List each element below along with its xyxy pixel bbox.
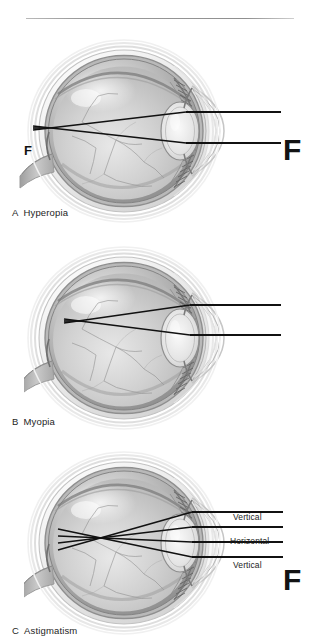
ray-lower-refracted [64,319,190,335]
caption-text-b: Myopia [24,416,56,427]
focal-label-hyperopia: F [283,135,301,165]
ray-vertical-bottom-refracted [58,529,192,557]
ray-lower-refracted [33,126,186,143]
refractive-errors-figure: F F AHyperopia F F BMyopia [0,0,318,642]
caption-text-c: Astigmatism [24,625,77,636]
light-rays-myopia [0,245,318,435]
panel-hyperopia: F F [0,30,318,230]
caption-letter-c: C [12,625,19,636]
caption-letter-a: A [12,207,19,218]
panel-astigmatism: F [0,450,318,640]
caption-astigmatism: CAstigmatism [12,625,77,636]
ray-label-vertical-top: Vertical [233,512,262,522]
caption-myopia: BMyopia [12,416,55,427]
light-rays-astigmatism [0,450,318,640]
caption-text-a: Hyperopia [24,207,69,218]
caption-hyperopia: AHyperopia [12,207,68,218]
light-rays-hyperopia [0,30,318,230]
focal-point-marker-hyperopia: F [24,144,32,157]
ray-upper-refracted [33,112,186,130]
panel-myopia: F F [0,245,318,435]
header-divider [26,18,294,19]
ray-label-vertical-bottom: Vertical [233,560,262,570]
ray-upper-refracted [64,305,190,323]
ray-label-horizontal: Horizontal [230,536,269,546]
ray-vertical-top-refracted [58,512,192,550]
caption-letter-b: B [12,416,19,427]
